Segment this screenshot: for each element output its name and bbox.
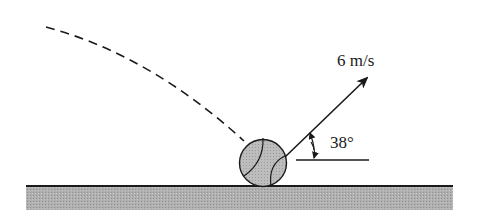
ground [26,186,453,210]
velocity-arrow [285,78,367,157]
projectile-diagram: 6 m/s 38° [0,0,482,214]
angle-label: 38° [330,133,354,152]
trajectory-dashed-path [46,27,244,141]
velocity-label: 6 m/s [337,51,374,70]
ball [240,138,287,187]
angle-arc-upper [310,133,314,150]
